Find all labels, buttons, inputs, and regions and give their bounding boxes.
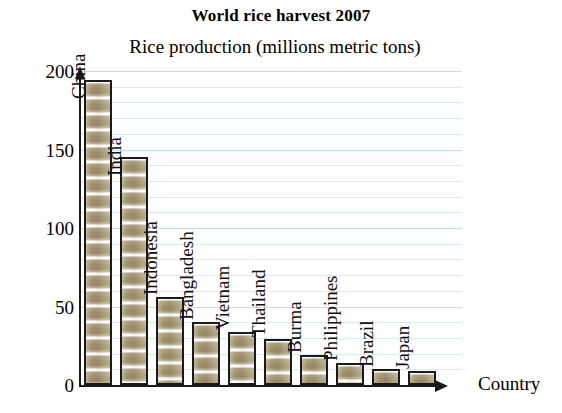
gridline (79, 118, 462, 119)
bar-label: Bangladesh (177, 232, 196, 325)
plot-area: ChinaIndiaIndonesiaBangladeshVietnamThai… (79, 64, 462, 389)
bar-label: Thailand (249, 270, 268, 342)
x-axis-label: Country (478, 373, 540, 395)
bar-label: China (69, 54, 88, 103)
y-axis-label: Rice production (millions metric tons) (60, 36, 490, 58)
bar[interactable]: Japan (408, 371, 436, 385)
bar-label: India (105, 137, 124, 180)
gridline (79, 102, 462, 103)
bar-label: Philippines (321, 276, 340, 366)
bar-texture (230, 334, 254, 383)
chart-title: World rice harvest 2007 (0, 6, 562, 26)
bar-texture (86, 82, 110, 383)
bar-label: Burma (285, 301, 304, 357)
x-axis-line (79, 385, 437, 387)
y-tick-label: 100 (26, 219, 74, 238)
x-axis-arrow-icon (435, 380, 448, 392)
gridline (79, 150, 462, 151)
y-tick-label: 50 (26, 298, 74, 317)
y-axis-tick-labels: 050100150200 (22, 64, 74, 394)
gridline (79, 71, 462, 72)
bar[interactable]: China (84, 80, 112, 385)
gridline (79, 87, 462, 88)
bar-texture (410, 373, 434, 383)
y-tick-label: 0 (26, 376, 74, 395)
y-tick-label: 150 (26, 141, 74, 160)
bar-label: Japan (393, 326, 412, 373)
bar-label: Vietnam (213, 265, 232, 333)
y-axis-line (79, 71, 81, 385)
bar-label: Indonesia (141, 221, 160, 299)
gridline (79, 134, 462, 135)
bar-label: Brazil (357, 321, 376, 371)
rice-harvest-bar-chart: World rice harvest 2007 Rice production … (0, 0, 562, 413)
bar-texture (374, 371, 398, 383)
